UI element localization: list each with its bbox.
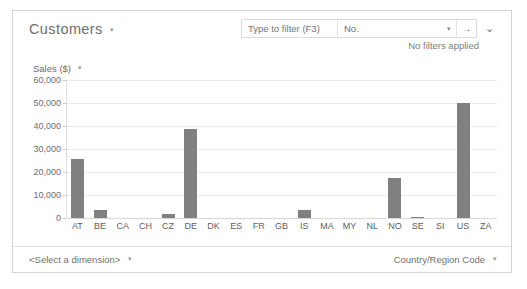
bar[interactable] xyxy=(388,178,401,218)
page-title: Customers xyxy=(29,21,103,37)
filter-toolbar: No. ▾ → ⌄ xyxy=(241,19,501,38)
bar[interactable] xyxy=(184,129,197,218)
bar-column[interactable] xyxy=(361,80,384,218)
plot-area: 60,00050,00040,00030,00020,00010,0000 xyxy=(66,80,497,218)
filter-field-value[interactable]: No. xyxy=(338,20,442,37)
bar-column[interactable] xyxy=(384,80,407,218)
chevron-down-icon[interactable]: ▾ xyxy=(442,20,456,37)
y-tick-label: 40,000 xyxy=(33,121,61,131)
dimension-label: <Select a dimension> xyxy=(29,254,120,265)
bar-column[interactable] xyxy=(429,80,452,218)
y-tick-label: 50,000 xyxy=(33,98,61,108)
x-tick-label: ZA xyxy=(474,221,497,231)
x-tick-label: GB xyxy=(270,221,293,231)
grid-line: 0 xyxy=(67,218,497,219)
x-tick-label: DE xyxy=(179,221,202,231)
x-axis-labels: ATBECACHCZDEDKESFRGBISMAMYNLNOSESIUSZA xyxy=(66,221,497,231)
expand-chevron-down-icon[interactable]: ⌄ xyxy=(477,19,501,38)
bar-column[interactable] xyxy=(66,80,89,218)
bar-column[interactable] xyxy=(293,80,316,218)
x-tick-label: ES xyxy=(225,221,248,231)
x-tick-label: US xyxy=(452,221,475,231)
bar[interactable] xyxy=(162,214,175,218)
bar-column[interactable] xyxy=(111,80,134,218)
x-tick-label: IS xyxy=(293,221,316,231)
y-tick-mark xyxy=(63,218,66,219)
x-tick-label: CH xyxy=(134,221,157,231)
chevron-down-icon[interactable]: ▾ xyxy=(110,26,114,33)
x-tick-label: CZ xyxy=(157,221,180,231)
panel-footer: <Select a dimension> ▾ Country/Region Co… xyxy=(13,246,511,272)
x-tick-label: SI xyxy=(429,221,452,231)
x-tick-label: AT xyxy=(66,221,89,231)
arrow-right-icon[interactable]: → xyxy=(456,20,476,37)
bar-column[interactable] xyxy=(202,80,225,218)
chevron-down-icon[interactable]: ▾ xyxy=(128,255,132,262)
bar[interactable] xyxy=(94,210,107,218)
chevron-down-icon[interactable]: ▾ xyxy=(493,255,497,262)
x-tick-label: SE xyxy=(406,221,429,231)
bar[interactable] xyxy=(71,159,84,218)
bar-column[interactable] xyxy=(474,80,497,218)
y-tick-label: 10,000 xyxy=(33,190,61,200)
bar-column[interactable] xyxy=(406,80,429,218)
filter-box: No. ▾ → xyxy=(241,19,477,38)
bar[interactable] xyxy=(298,210,311,219)
measure-label: Country/Region Code xyxy=(394,254,485,265)
y-tick-label: 60,000 xyxy=(33,75,61,85)
panel-title-group[interactable]: Customers ▾ xyxy=(29,21,114,37)
y-axis-label: Sales ($) xyxy=(33,63,71,74)
x-tick-label: FR xyxy=(248,221,271,231)
bar-column[interactable] xyxy=(316,80,339,218)
bar-column[interactable] xyxy=(89,80,112,218)
x-tick-label: NO xyxy=(384,221,407,231)
x-tick-label: NL xyxy=(361,221,384,231)
bar-column[interactable] xyxy=(157,80,180,218)
x-tick-label: DK xyxy=(202,221,225,231)
bar[interactable] xyxy=(457,103,470,218)
y-tick-label: 30,000 xyxy=(33,144,61,154)
x-tick-label: MA xyxy=(316,221,339,231)
x-tick-label: MY xyxy=(338,221,361,231)
chevron-down-icon[interactable]: ▾ xyxy=(78,64,82,71)
bar[interactable] xyxy=(411,217,424,218)
bar-series xyxy=(66,80,497,218)
x-tick-label: BE xyxy=(89,221,112,231)
bar-column[interactable] xyxy=(134,80,157,218)
dimension-selector[interactable]: <Select a dimension> ▾ xyxy=(29,254,132,265)
y-tick-label: 20,000 xyxy=(33,167,61,177)
filter-status-text: No filters applied xyxy=(408,40,479,51)
y-axis-measure-selector[interactable]: Sales ($) ▾ xyxy=(33,63,82,74)
customers-chart-panel: Customers ▾ No. ▾ → ⌄ No filters applied… xyxy=(12,10,512,273)
bar-column[interactable] xyxy=(452,80,475,218)
search-input[interactable] xyxy=(242,20,337,37)
x-tick-label: CA xyxy=(111,221,134,231)
bar-column[interactable] xyxy=(248,80,271,218)
y-tick-label: 0 xyxy=(56,213,61,223)
bar-column[interactable] xyxy=(270,80,293,218)
chart-container: Sales ($) ▾ 60,00050,00040,00030,00020,0… xyxy=(13,59,511,240)
measure-selector[interactable]: Country/Region Code ▾ xyxy=(394,254,497,265)
bar-column[interactable] xyxy=(338,80,361,218)
bar-column[interactable] xyxy=(179,80,202,218)
panel-header: Customers ▾ No. ▾ → ⌄ No filters applied xyxy=(13,11,511,59)
bar-column[interactable] xyxy=(225,80,248,218)
